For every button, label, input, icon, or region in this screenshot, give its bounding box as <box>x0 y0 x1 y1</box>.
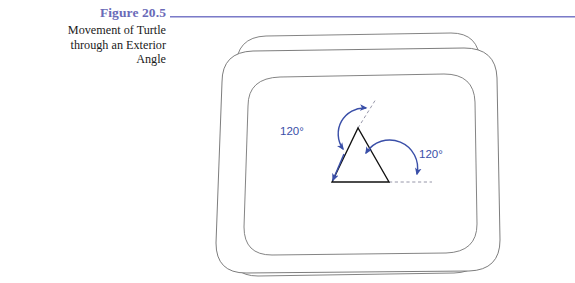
figure-number-label: Figure 20.5 <box>14 4 166 21</box>
apex-angle-label-text: 120° <box>280 125 304 137</box>
figure-caption-block: Figure 20.5 Movement of Turtle through a… <box>14 4 166 67</box>
turtle-graphics-figure: 120° 120° <box>196 22 556 283</box>
apex-angle-label: 120° <box>280 125 304 137</box>
tv-screen-bezel <box>244 74 477 255</box>
caption-line-1: Movement of Turtle <box>14 23 166 38</box>
figure-header-rule <box>170 16 575 17</box>
figure-caption-text: Movement of Turtle through an Exterior A… <box>14 23 166 67</box>
base-right-angle-label-text: 120° <box>419 148 443 160</box>
caption-line-2: through an Exterior <box>14 38 166 53</box>
caption-line-3: Angle <box>14 52 166 67</box>
base-right-angle-label: 120° <box>419 148 443 160</box>
